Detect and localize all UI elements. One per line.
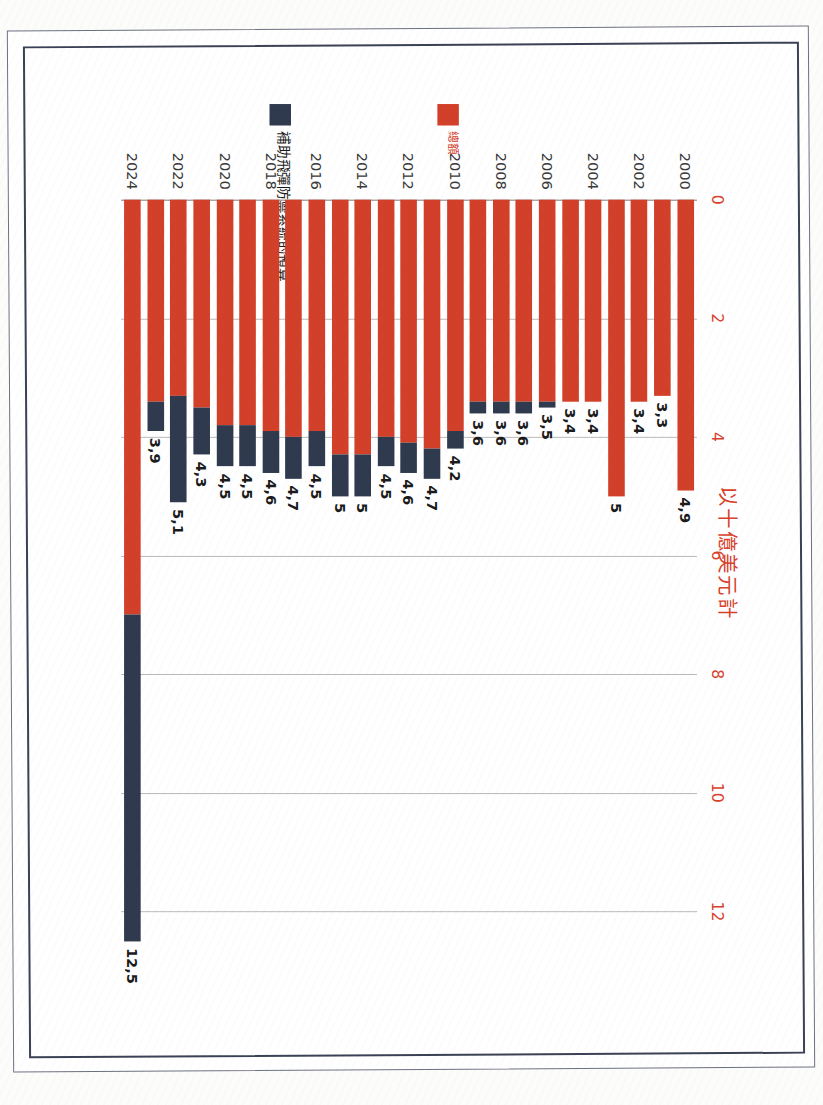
category-label-2014: 2014 [353, 152, 371, 189]
bar-row[interactable]: 5 [608, 199, 625, 496]
bar-value-label: 3,5 [538, 414, 556, 440]
bar-row[interactable]: 12,52024 [124, 199, 141, 940]
category-label-2000: 2000 [676, 152, 694, 189]
bar-row[interactable]: 4,3 [193, 199, 210, 454]
bar-row[interactable]: 3,62008 [493, 199, 510, 413]
bar-segment-total [308, 199, 325, 430]
bar-segment-total [584, 199, 601, 401]
bar-row[interactable]: 3,4 [562, 199, 579, 401]
bar-segment-missile [262, 431, 279, 473]
bar-segment-missile [377, 436, 394, 466]
bar-value-label: 4,6 [262, 479, 280, 505]
bar-row[interactable]: 4,7 [285, 199, 302, 478]
category-label-2018: 2018 [262, 152, 280, 189]
category-label-2008: 2008 [492, 152, 510, 189]
bar-row[interactable]: 3,3 [654, 199, 671, 395]
bar-segment-missile [239, 425, 256, 467]
bar-value-label: 12,5 [123, 947, 141, 983]
bar-row[interactable]: 3,42004 [584, 199, 601, 401]
bar-segment-total [262, 199, 279, 430]
bar-value-label: 5 [331, 503, 349, 513]
bar-row[interactable]: 3,42002 [630, 199, 647, 401]
bar-row[interactable]: 4,62018 [262, 199, 279, 472]
bar-value-label: 3,9 [147, 437, 165, 463]
category-label-2016: 2016 [308, 152, 326, 189]
bar-segment-missile [515, 401, 532, 413]
bar-segment-total [515, 199, 532, 401]
bar-value-label: 3,6 [514, 420, 532, 446]
bar-segment-total [331, 199, 348, 454]
bar-segment-total [400, 199, 417, 442]
bar-value-label: 4,5 [377, 473, 395, 499]
bar-segment-missile [124, 614, 141, 940]
bar-segment-total [377, 199, 394, 436]
bar-segment-missile [400, 442, 417, 472]
bar-segment-total [124, 199, 141, 614]
bar-value-label: 4,3 [192, 461, 210, 487]
bar-value-label: 4,5 [308, 473, 326, 499]
bar-row[interactable]: 4,62012 [400, 199, 417, 472]
bar-segment-missile [469, 401, 486, 413]
bar-segment-total [447, 199, 464, 430]
bar-row[interactable]: 4,5 [377, 199, 394, 466]
axis-tick-label-0: 0 [707, 194, 726, 204]
category-label-2010: 2010 [446, 152, 464, 189]
bar-value-label: 4,9 [676, 497, 694, 523]
bar-segment-missile [285, 436, 302, 478]
bar-row[interactable]: 4,52016 [308, 199, 325, 466]
bar-row[interactable]: 52014 [354, 199, 371, 496]
bar-row[interactable]: 3,6 [469, 199, 486, 413]
bar-segment-total [608, 199, 625, 496]
bar-value-label: 4,5 [216, 473, 234, 499]
bar-segment-missile [308, 431, 325, 467]
bar-segment-total [538, 199, 555, 401]
bar-segment-total [147, 199, 164, 401]
bar-value-label: 3,6 [469, 420, 487, 446]
bar-value-label: 3,4 [630, 408, 648, 434]
legend-swatch-total-icon [437, 104, 458, 125]
bar-row[interactable]: 5 [331, 199, 348, 496]
bar-row[interactable]: 4,5 [239, 199, 256, 466]
bar-segment-missile [493, 401, 510, 413]
bar-value-label: 5 [353, 503, 371, 513]
bar-value-label: 5,1 [169, 509, 187, 535]
axis-tick-label-2: 2 [707, 313, 726, 323]
category-label-2022: 2022 [169, 152, 187, 189]
bar-segment-missile [538, 401, 555, 407]
chart-figure: 以十億美元計 總額 補助飛彈防禦系統的預算 0246810124,920003,… [68, 84, 751, 1021]
bar-segment-missile [423, 448, 440, 478]
bar-segment-missile [193, 407, 210, 454]
bar-segment-total [677, 199, 694, 490]
bar-segment-missile [147, 401, 164, 431]
bar-segment-total [239, 199, 256, 424]
bar-segment-total [169, 199, 186, 395]
category-label-2002: 2002 [630, 152, 648, 189]
bar-segment-missile [447, 431, 464, 449]
bar-row[interactable]: 5,12022 [169, 199, 186, 501]
axis-tick-label-12: 12 [707, 901, 726, 921]
bar-row[interactable]: 4,92000 [677, 199, 694, 490]
bar-segment-total [285, 199, 302, 436]
category-label-2012: 2012 [399, 152, 417, 189]
bar-segment-total [493, 199, 510, 401]
bar-value-label: 4,7 [284, 485, 302, 511]
category-label-2004: 2004 [584, 152, 602, 189]
bar-row[interactable]: 3,6 [515, 199, 532, 413]
gridline-8 [121, 674, 697, 675]
bar-row[interactable]: 3,52006 [538, 199, 555, 407]
bar-row[interactable]: 3,9 [147, 199, 164, 430]
bar-segment-total [469, 199, 486, 401]
bar-segment-missile [169, 395, 186, 502]
category-label-2024: 2024 [123, 152, 141, 189]
axis-tick-label-6: 6 [707, 550, 726, 560]
gridline-12 [121, 911, 697, 912]
bar-segment-total [562, 199, 579, 401]
bar-row[interactable]: 4,22010 [447, 199, 464, 448]
axis-tick-label-8: 8 [707, 669, 726, 679]
bar-row[interactable]: 4,52020 [216, 199, 233, 466]
bar-segment-missile [331, 454, 348, 496]
bar-value-label: 5 [607, 503, 625, 513]
bar-row[interactable]: 4,7 [423, 199, 440, 478]
bar-segment-total [654, 199, 671, 395]
bar-value-label: 4,5 [238, 473, 256, 499]
